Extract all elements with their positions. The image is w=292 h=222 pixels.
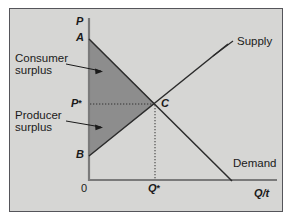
figure-page: P A P* B C 0 Q* Q/t Supply Demand Consum… <box>0 0 292 222</box>
point-b-label: B <box>76 149 84 161</box>
supply-curve-label: Supply <box>237 35 272 47</box>
consumer-surplus-line-2: surplus <box>15 64 68 76</box>
origin-label: 0 <box>81 183 87 195</box>
quantity-equilibrium-star: * <box>157 183 161 193</box>
quantity-equilibrium-label: Q* <box>148 183 160 195</box>
producer-surplus-line-1: Producer <box>15 109 62 121</box>
quantity-equilibrium-letter: Q <box>148 182 157 194</box>
x-axis-label: Q/t <box>254 188 269 200</box>
y-axis-label: P <box>76 16 83 28</box>
consumer-surplus-annotation: Consumer surplus <box>15 52 68 77</box>
demand-curve-label: Demand <box>233 157 276 169</box>
point-a-label: A <box>76 32 84 44</box>
producer-surplus-line-2: surplus <box>15 121 62 133</box>
consumer-surplus-line-1: Consumer <box>15 52 68 64</box>
point-c-label: C <box>161 98 169 110</box>
price-equilibrium-label: P* <box>71 98 82 110</box>
price-equilibrium-star: * <box>78 98 82 108</box>
producer-surplus-annotation: Producer surplus <box>15 109 62 134</box>
